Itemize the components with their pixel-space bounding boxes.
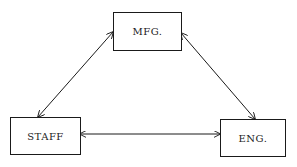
node-eng: ENG. [220, 119, 286, 157]
arrow-mfg-eng [181, 33, 255, 119]
node-mfg: MFG. [113, 12, 182, 51]
node-staff-label: STAFF [27, 131, 64, 142]
node-staff: STAFF [10, 117, 81, 155]
node-mfg-label: MFG. [133, 26, 163, 37]
node-eng-label: ENG. [239, 133, 268, 144]
diagram-canvas: MFG. STAFF ENG. [0, 0, 297, 167]
arrow-mfg-staff [38, 32, 113, 117]
